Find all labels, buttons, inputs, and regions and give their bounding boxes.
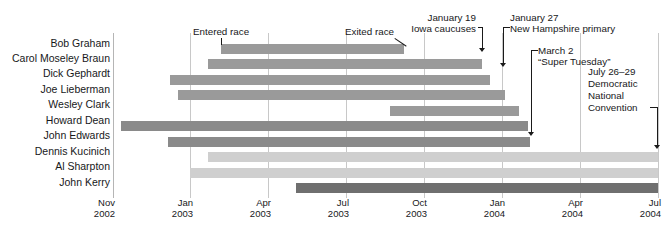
dnc-arrow-icon — [654, 145, 660, 149]
xtick-jul-2004: Jul 2004 — [601, 198, 661, 219]
row-label-dick-gephardt: Dick Gephardt — [43, 68, 110, 79]
iowa-leader — [482, 27, 483, 49]
row-label-john-edwards: John Edwards — [43, 130, 110, 141]
nh-arrow-icon — [500, 63, 506, 67]
xtick-nov-2002: Nov 2002 — [55, 198, 115, 219]
row-label-joe-lieberman: Joe Lieberman — [41, 84, 110, 95]
iowa-arrow-icon — [479, 48, 485, 52]
annotation-super-line1: March 2 — [538, 45, 573, 56]
bar-howard-dean — [121, 121, 528, 131]
bar-wesley-clark — [390, 106, 519, 116]
annotation-nh-line2: New Hampshire primary — [510, 23, 615, 34]
annotation-dnc-line1: July 26–29 — [588, 66, 635, 77]
nh-leader — [503, 27, 504, 63]
gridline-jul-2004 — [658, 33, 659, 198]
row-label-wesley-clark: Wesley Clark — [48, 99, 110, 110]
row-label-carol-moseley-braun: Carol Moseley Braun — [12, 53, 110, 64]
xtick-apr-2004: Apr 2004 — [523, 198, 583, 219]
primary-timeline-chart: Bob Graham Carol Moseley Braun Dick Geph… — [0, 0, 668, 246]
annotation-nh-line1: January 27 — [510, 12, 558, 23]
row-label-al-sharpton: Al Sharpton — [55, 161, 110, 172]
xtick-oct-2003: Oct 2003 — [367, 198, 427, 219]
annotation-iowa-line2: Iowa caucuses — [344, 23, 476, 34]
row-label-dennis-kucinich: Dennis Kucinich — [35, 146, 110, 157]
annotation-entered-race-label: Entered race — [193, 26, 249, 37]
xtick-jan-2003: Jan 2003 — [133, 198, 193, 219]
entered-race-leader — [221, 38, 222, 45]
row-label-howard-dean: Howard Dean — [46, 115, 110, 126]
bar-carol-moseley-braun — [208, 59, 482, 69]
bar-john-kerry — [296, 183, 658, 193]
dnc-leader — [657, 107, 658, 145]
bar-dennis-kucinich — [208, 152, 658, 162]
bar-joe-lieberman — [178, 90, 505, 100]
nh-elbow — [504, 27, 510, 28]
xtick-jan-2004: Jan 2004 — [445, 198, 505, 219]
xtick-apr-2003: Apr 2003 — [211, 198, 271, 219]
bar-al-sharpton — [190, 168, 658, 178]
xtick-jul-2003: Jul 2003 — [289, 198, 349, 219]
bar-john-edwards — [168, 137, 530, 147]
annotation-dnc-line3: National — [588, 90, 624, 101]
super-leader — [531, 50, 532, 132]
row-label-bob-graham: Bob Graham — [50, 38, 110, 49]
annotation-iowa-line1: January 19 — [344, 12, 476, 23]
super-arrow-icon — [528, 132, 534, 136]
y-axis-line — [113, 33, 114, 198]
row-label-john-kerry: John Kerry — [59, 177, 110, 188]
annotation-dnc-line4: Convention — [588, 102, 638, 113]
annotation-dnc-line2: Democratic — [588, 78, 638, 89]
bar-bob-graham — [221, 44, 404, 54]
bar-dick-gephardt — [170, 75, 490, 85]
super-elbow — [532, 50, 538, 51]
